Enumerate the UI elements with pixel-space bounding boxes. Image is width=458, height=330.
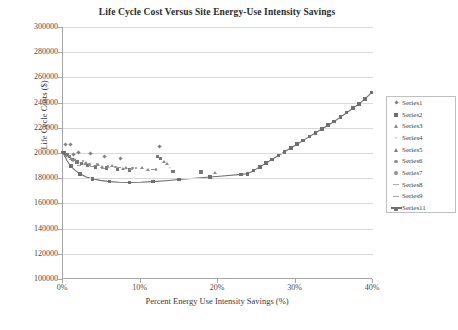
dash-icon — [390, 184, 402, 185]
series11-point — [283, 150, 287, 154]
x-axis-tick-mark — [140, 279, 141, 283]
y-axis-tick-label: 200000 — [4, 149, 58, 157]
legend-item-series9[interactable]: Series9 — [387, 191, 455, 203]
legend-item-label: Series7 — [402, 169, 423, 177]
series11-point — [320, 127, 324, 131]
data-point — [77, 165, 81, 166]
legend-item-label: Series4 — [402, 134, 423, 142]
gridline — [63, 153, 373, 154]
y-axis-tick-label: 260000 — [4, 73, 58, 81]
x-axis-tick-mark — [217, 279, 218, 283]
data-point — [101, 168, 105, 169]
y-axis-tick-label: 140000 — [4, 225, 58, 233]
series11-point — [357, 102, 361, 106]
y-axis-tick-mark — [58, 128, 62, 129]
series11-point — [239, 173, 243, 177]
triangle-icon — [390, 124, 402, 128]
data-point — [146, 168, 150, 171]
series11-point — [91, 177, 95, 181]
x-axis-tick-label: 0% — [42, 283, 82, 292]
series11-point — [108, 180, 112, 184]
data-point — [140, 166, 144, 169]
x-axis-title: Percent Energy Use Intensity Savings (%) — [62, 296, 372, 306]
y-axis-tick-mark — [58, 27, 62, 28]
y-axis-tick-mark — [58, 103, 62, 104]
series11-point — [314, 131, 318, 135]
diamond-icon — [390, 101, 402, 104]
legend-item-series5[interactable]: Series5 — [387, 144, 455, 156]
series11-point — [264, 161, 268, 165]
y-axis-tick-label: 300000 — [4, 23, 58, 31]
y-axis-tick-label: 120000 — [4, 250, 58, 258]
x-axis-tick-label: 40% — [352, 283, 392, 292]
chart-title: Life Cycle Cost Versus Site Energy-Use I… — [62, 6, 372, 18]
data-point — [155, 168, 158, 171]
y-axis-tick-label: 180000 — [4, 174, 58, 182]
series11-point — [177, 178, 181, 182]
gridline — [63, 77, 373, 78]
y-axis-tick-mark — [58, 203, 62, 204]
data-point — [199, 170, 202, 173]
legend-item-series6[interactable]: Series6 — [387, 155, 455, 167]
gridline — [63, 229, 373, 230]
y-axis-tick-mark — [58, 153, 62, 154]
series11-point — [246, 172, 250, 176]
x-icon: × — [390, 135, 402, 141]
x-axis-tick-mark — [62, 279, 63, 283]
legend-item-series1[interactable]: Series1 — [387, 97, 455, 109]
y-axis-tick-mark — [58, 77, 62, 78]
y-axis-tick-label: 160000 — [4, 199, 58, 207]
x-axis-tick-mark — [372, 279, 373, 283]
gridline — [63, 27, 373, 28]
series11-point — [326, 123, 330, 127]
series11-point — [289, 146, 293, 150]
legend-item-label: Series11 — [402, 204, 426, 212]
gridline — [63, 103, 373, 104]
data-point — [121, 167, 125, 170]
series11-point — [363, 97, 367, 101]
x-axis-tick-mark — [295, 279, 296, 283]
x-axis-tick-label: 10% — [120, 283, 160, 292]
legend-item-series3[interactable]: Series3 — [387, 120, 455, 132]
gridline — [63, 52, 373, 53]
y-axis-tick-mark — [58, 254, 62, 255]
series11-point — [69, 164, 73, 168]
legend-item-series11[interactable]: Series11 — [387, 202, 455, 214]
x-axis-tick-label: 20% — [197, 283, 237, 292]
series11-point — [295, 142, 299, 146]
series11-point — [258, 165, 262, 169]
data-point — [151, 169, 155, 170]
data-point — [83, 162, 87, 165]
legend-item-series4[interactable]: ×Series4 — [387, 132, 455, 144]
x-axis-tick-label: 30% — [275, 283, 315, 292]
legend-item-series2[interactable]: Series2 — [387, 109, 455, 121]
legend-item-label: Series8 — [402, 181, 423, 189]
series11-point — [78, 172, 82, 176]
legend[interactable]: Series1Series2Series3×Series4Series5Seri… — [386, 96, 456, 213]
gridline — [63, 254, 373, 255]
legend-item-label: Series5 — [402, 146, 423, 154]
series11-point — [151, 180, 155, 184]
series11-point — [270, 158, 274, 162]
legend-item-label: Series6 — [402, 157, 423, 165]
y-axis-tick-label: 240000 — [4, 99, 58, 107]
series11-point — [345, 111, 349, 115]
legend-item-label: Series9 — [402, 192, 423, 200]
series11-point — [277, 154, 281, 158]
y-axis-tick-mark — [58, 178, 62, 179]
triangle-filled-icon — [390, 148, 402, 152]
y-axis-tick-label: 280000 — [4, 48, 58, 56]
gridline — [63, 128, 373, 129]
series11-point — [252, 169, 256, 173]
y-axis-tick-mark — [58, 229, 62, 230]
legend-item-label: Series1 — [402, 99, 423, 107]
circle-icon — [390, 160, 402, 163]
series11-point — [308, 135, 312, 139]
dash-icon — [390, 196, 402, 197]
legend-item-series7[interactable]: Series7 — [387, 167, 455, 179]
y-axis-title: Life Cycle Costs ($) — [39, 45, 49, 185]
line-square-icon — [390, 207, 402, 209]
data-point — [213, 171, 217, 174]
circle-icon — [390, 171, 402, 174]
legend-item-series8[interactable]: Series8 — [387, 179, 455, 191]
